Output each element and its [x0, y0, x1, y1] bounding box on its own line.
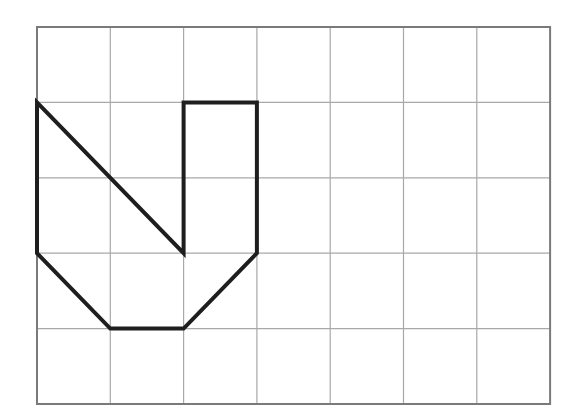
- grid-lines: [37, 27, 550, 404]
- grid-border: [37, 27, 550, 404]
- grid-diagram: [0, 0, 578, 416]
- drawn-polygon: [37, 102, 257, 328]
